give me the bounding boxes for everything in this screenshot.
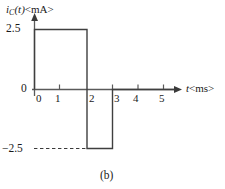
y-axis-unit: <mA> [25,3,54,15]
y-label-zero: 0 [21,83,27,95]
waveform-plot [0,0,225,189]
x-axis-ticks [60,85,164,90]
y-axis-label: iC(t)<mA> [6,4,54,17]
x-tick-label-2: 2 [89,93,95,104]
y-label-negative: −2.5 [2,143,23,155]
figure-caption: (b) [100,170,113,182]
x-tick-label-5: 5 [159,93,165,104]
figure-container: iC(t)<mA> t<ms> 2.5 0 −2.5 0 1 2 3 4 5 (… [0,0,225,189]
x-axis-label: t<ms> [186,83,214,94]
y-axis-argument: (t) [14,3,24,15]
x-tick-label-4: 4 [133,93,139,104]
x-tick-label-0: 0 [36,93,42,104]
x-axis-unit: <ms> [189,82,214,94]
x-tick-label-3: 3 [114,93,120,104]
x-tick-label-1: 1 [55,93,61,104]
y-label-positive: 2.5 [6,23,20,35]
